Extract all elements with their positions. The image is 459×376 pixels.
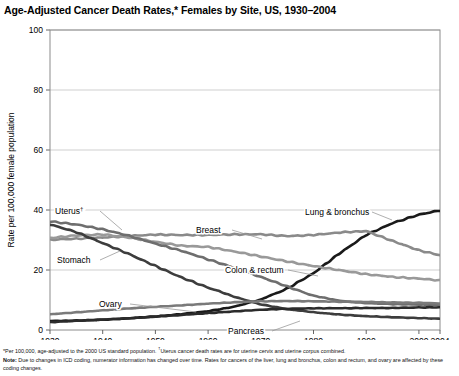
footnote-note: Note: Due to changes in ICD coding, nume… — [3, 356, 455, 374]
page-title: Age-Adjusted Cancer Death Rates,* Female… — [4, 4, 336, 16]
y-tick-label-0: 0 — [38, 325, 43, 335]
note-label: Note: — [3, 357, 17, 363]
y-tick-label-20: 20 — [34, 265, 44, 275]
footnotes: *Per 100,000, age-adjusted to the 2000 U… — [3, 345, 455, 373]
leader-line-stomach — [100, 251, 120, 260]
series-label-ovary: Ovary — [99, 299, 122, 309]
y-tick-label-100: 100 — [29, 25, 43, 35]
x-tick-label-1980: 1980 — [304, 336, 323, 340]
series-label-stomach: Stomach — [57, 255, 91, 265]
series-label-pancreas: Pancreas — [228, 326, 264, 336]
series-label-lung-bronchus: Lung & bronchus — [305, 207, 369, 217]
footnote-source: *Per 100,000, age-adjusted to the 2000 U… — [3, 348, 158, 354]
x-tick-label-1960: 1960 — [199, 336, 218, 340]
y-tick-label-60: 60 — [34, 145, 44, 155]
x-tick-label-1950: 1950 — [146, 336, 165, 340]
series-label-uterus: Uterus† — [55, 206, 83, 216]
leader-line-uterus — [100, 211, 122, 230]
plot-area: 0204060801001930194019501960197019801990… — [0, 18, 459, 340]
x-tick-label-1990: 1990 — [357, 336, 376, 340]
footnote-line-1: *Per 100,000, age-adjusted to the 2000 U… — [3, 345, 455, 356]
x-tick-label-2004: 2004 — [431, 336, 450, 340]
series-label-breast: Breast — [196, 225, 221, 235]
leader-line-lung-bronchus — [372, 212, 392, 220]
series-label-colon-rectum: Colon & rectum — [225, 265, 284, 275]
y-tick-label-40: 40 — [34, 205, 44, 215]
footnote-uterus: Uterus cancer death rates are for uterin… — [160, 348, 345, 354]
note-text: Due to changes in ICD coding, numerator … — [3, 357, 443, 372]
chart-canvas: 0204060801001930194019501960197019801990… — [0, 18, 459, 340]
cancer-death-rates-chart: Age-Adjusted Cancer Death Rates,* Female… — [0, 0, 459, 376]
plot-frame — [50, 30, 440, 330]
x-tick-label-1940: 1940 — [93, 336, 112, 340]
y-tick-label-80: 80 — [34, 85, 44, 95]
y-axis-title: Rate per 100,000 female population — [6, 112, 16, 247]
x-tick-label-1930: 1930 — [41, 336, 60, 340]
x-tick-label-2000: 2000 — [409, 336, 428, 340]
x-tick-label-1970: 1970 — [251, 336, 270, 340]
